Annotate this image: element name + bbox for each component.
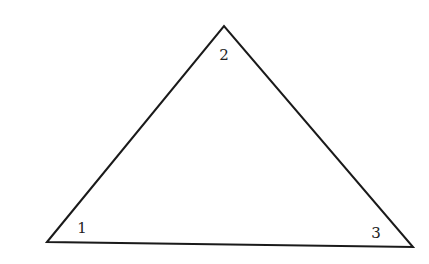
angle-label-1: 1 — [77, 219, 87, 237]
angle-label-3: 3 — [371, 224, 381, 242]
triangle-shape — [47, 26, 413, 247]
triangle-diagram: 1 2 3 — [0, 0, 429, 264]
angle-label-2: 2 — [219, 46, 229, 64]
